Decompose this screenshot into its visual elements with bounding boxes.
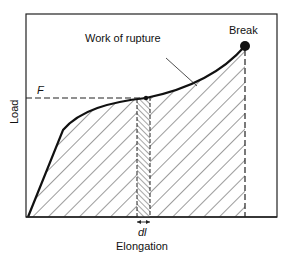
increment-strip [137, 80, 150, 217]
force-point [144, 96, 148, 100]
y-axis-label: Load [8, 100, 20, 124]
break-label: Break [229, 24, 258, 36]
increment-arrows [137, 220, 150, 224]
work-of-rupture-label: Work of rupture [85, 32, 161, 44]
work-of-rupture-leader [166, 58, 197, 86]
x-axis-label: Elongation [116, 240, 168, 252]
force-label: F [37, 84, 45, 96]
break-point [240, 41, 250, 51]
increment-label: dl [138, 226, 147, 238]
load-elongation-diagram: Work of rupture Break F dl Elongation Lo… [0, 0, 288, 265]
